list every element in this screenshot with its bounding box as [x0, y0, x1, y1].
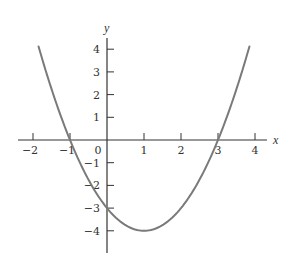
y-tick-label: −4 [84, 225, 100, 238]
x-tick-label: −2 [22, 144, 38, 157]
y-tick-label: −1 [84, 157, 100, 170]
y-tick-label: −3 [84, 202, 100, 215]
y-tick-label: 1 [93, 111, 100, 124]
parabola-chart: −2−101234 4321−1−2−3−4 x y [0, 0, 292, 261]
x-tick-label: 4 [252, 144, 259, 157]
x-axis-ticks: −2−101234 [22, 133, 259, 157]
y-tick-label: 3 [93, 66, 100, 79]
x-tick-label: 2 [178, 144, 185, 157]
y-tick-label: 2 [93, 89, 100, 102]
y-tick-label: 4 [93, 43, 100, 56]
x-tick-label: 0 [95, 144, 102, 157]
x-tick-label: 1 [141, 144, 148, 157]
y-axis-label: y [103, 21, 110, 35]
x-axis-label: x [272, 133, 279, 147]
